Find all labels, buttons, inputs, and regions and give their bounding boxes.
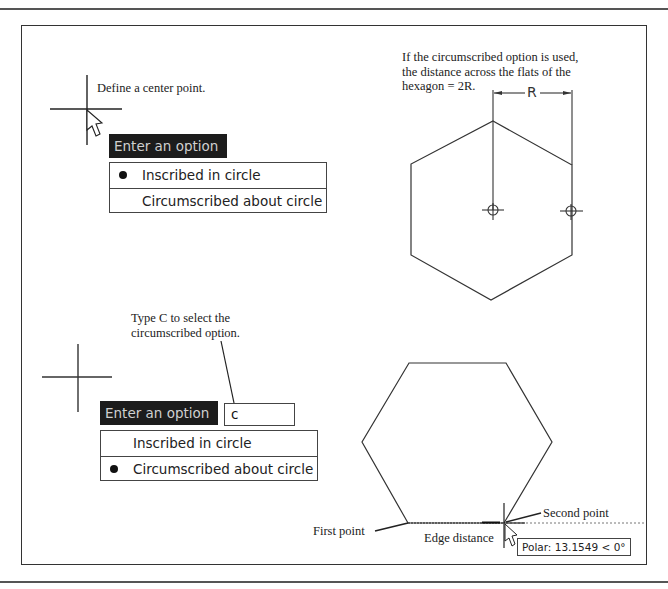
note-leader-line: [221, 341, 234, 403]
menu-item-label: Circumscribed about circle: [142, 193, 322, 209]
option-input[interactable]: c: [224, 403, 295, 426]
center-point-note: Define a center point.: [97, 81, 205, 96]
flat-midpoint-marker-icon: [560, 204, 583, 220]
enter-option-prompt-2: Enter an option: [100, 401, 218, 425]
circumscribed-note: If the circumscribed option is used, the…: [402, 50, 578, 94]
edge-distance-label: Edge distance: [424, 531, 494, 546]
menu-item-inscribed[interactable]: Inscribed in circle: [110, 163, 326, 188]
menu-item-label: Circumscribed about circle: [133, 461, 313, 477]
type-c-note: Type C to select the circumscribed optio…: [131, 311, 240, 340]
note-line: hexagon = 2R.: [402, 79, 578, 94]
note-line: the distance across the flats of the: [402, 65, 578, 80]
hexagon-edge-defined: [362, 363, 552, 523]
first-point-leader: [375, 523, 408, 531]
enter-option-prompt: Enter an option: [109, 134, 227, 158]
first-point-label: First point: [313, 524, 365, 539]
selected-bullet-icon: [110, 465, 118, 473]
mouse-pointer-icon: [87, 110, 102, 136]
note-line: If the circumscribed option is used,: [402, 50, 578, 65]
selected-bullet-icon: [119, 171, 127, 179]
second-point-label: Second point: [543, 506, 609, 521]
menu-item-circumscribed[interactable]: Circumscribed about circle: [101, 456, 317, 481]
note-line: circumscribed option.: [131, 326, 240, 341]
menu-item-label: Inscribed in circle: [133, 435, 252, 451]
dimension-r-label: R: [527, 84, 537, 100]
note-line: Type C to select the: [131, 311, 240, 326]
mouse-pointer-icon-2: [505, 524, 517, 546]
second-point-leader: [506, 513, 541, 522]
center-point-marker-icon: [482, 203, 504, 220]
menu-item-label: Inscribed in circle: [142, 167, 261, 183]
dimension-r: [493, 90, 572, 210]
option-menu-2: Inscribed in circle Circumscribed about …: [100, 430, 318, 481]
menu-item-circumscribed[interactable]: Circumscribed about circle: [110, 188, 326, 213]
menu-item-inscribed[interactable]: Inscribed in circle: [101, 431, 317, 456]
polar-tooltip: Polar: 13.1549 < 0°: [517, 538, 631, 556]
option-menu: Inscribed in circle Circumscribed about …: [109, 162, 327, 213]
